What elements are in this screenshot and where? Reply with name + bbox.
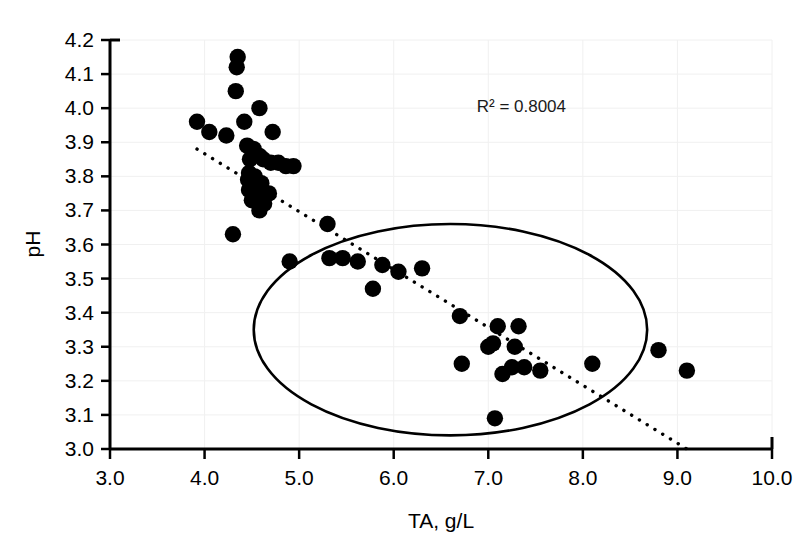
y-tick-label: 4.1 — [65, 62, 94, 85]
data-point — [454, 356, 470, 372]
x-tick-label: 9.0 — [663, 466, 692, 489]
y-tick-label: 4.0 — [65, 96, 94, 119]
data-point — [285, 158, 301, 174]
y-tick-label: 3.5 — [65, 267, 94, 290]
x-tick-label: 4.0 — [190, 466, 219, 489]
data-point — [229, 59, 245, 75]
y-axis-title: pH — [21, 231, 44, 258]
x-tick-label: 10.0 — [752, 466, 793, 489]
x-tick-label: 6.0 — [379, 466, 408, 489]
data-point — [490, 318, 506, 334]
data-point — [480, 339, 496, 355]
data-point — [236, 114, 252, 130]
data-point — [510, 318, 526, 334]
y-tick-label: 3.9 — [65, 130, 94, 153]
data-point — [201, 124, 217, 140]
data-point — [584, 356, 600, 372]
chart-annotations: R² = 0.8004 — [477, 97, 566, 116]
r-squared: R² = 0.8004 — [477, 97, 566, 116]
y-tick-label: 3.4 — [65, 301, 95, 324]
data-point — [650, 342, 666, 358]
y-tick-label: 3.1 — [65, 403, 94, 426]
data-point — [264, 124, 280, 140]
data-point — [532, 362, 548, 378]
x-axis-title: TA, g/L — [408, 509, 474, 532]
x-tick-label: 7.0 — [474, 466, 503, 489]
y-tick-label: 3.2 — [65, 369, 94, 392]
data-point — [251, 100, 267, 116]
data-point — [414, 260, 430, 276]
data-point — [319, 216, 335, 232]
y-tick-label: 4.2 — [65, 28, 94, 51]
data-point — [452, 308, 468, 324]
data-point — [679, 362, 695, 378]
y-tick-label: 3.0 — [65, 437, 94, 460]
data-point — [218, 127, 234, 143]
data-point — [251, 202, 267, 218]
x-tick-label: 5.0 — [285, 466, 314, 489]
data-point — [487, 410, 503, 426]
data-point — [516, 359, 532, 375]
data-point — [281, 253, 297, 269]
data-point — [507, 339, 523, 355]
data-point — [365, 281, 381, 297]
x-tick-label: 8.0 — [568, 466, 597, 489]
data-point — [494, 366, 510, 382]
data-point — [225, 226, 241, 242]
data-point — [390, 264, 406, 280]
data-point — [350, 253, 366, 269]
y-tick-label: 3.3 — [65, 335, 94, 358]
y-tick-label: 3.6 — [65, 233, 94, 256]
data-point — [228, 83, 244, 99]
scatter-plot-figure: 3.03.13.23.33.43.53.63.73.83.94.04.14.2 … — [0, 0, 806, 560]
plot-canvas: 3.03.13.23.33.43.53.63.73.83.94.04.14.2 … — [0, 0, 806, 560]
y-tick-label: 3.7 — [65, 198, 94, 221]
y-tick-label: 3.8 — [65, 164, 94, 187]
data-point — [334, 250, 350, 266]
data-point — [374, 257, 390, 273]
x-tick-label: 3.0 — [95, 466, 124, 489]
